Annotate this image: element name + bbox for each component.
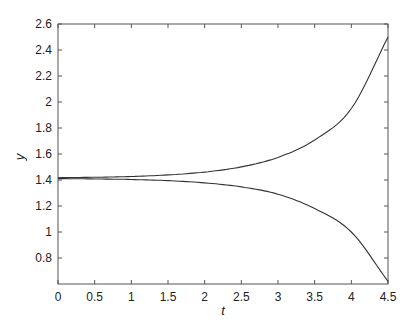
x-tick-label: 3 bbox=[275, 290, 282, 304]
x-tick-label: 2 bbox=[201, 290, 208, 304]
y-tick-label: 1.6 bbox=[35, 147, 52, 161]
y-tick-label: 1.2 bbox=[35, 199, 52, 213]
y-tick-label: 1 bbox=[45, 225, 52, 239]
x-tick-label: 0.5 bbox=[86, 290, 103, 304]
x-tick-label: 3.5 bbox=[306, 290, 323, 304]
x-tick-label: 2.5 bbox=[233, 290, 250, 304]
x-tick-label: 1 bbox=[128, 290, 135, 304]
x-axis-label: t bbox=[221, 303, 226, 318]
x-tick-label: 4 bbox=[348, 290, 355, 304]
line-chart: 00.511.522.533.544.5 0.811.21.41.61.822.… bbox=[0, 0, 409, 329]
y-tick-label: 1.8 bbox=[35, 121, 52, 135]
y-tick-label: 2 bbox=[45, 95, 52, 109]
plot-area bbox=[58, 24, 388, 284]
x-tick-label: 4.5 bbox=[380, 290, 397, 304]
y-tick-label: 0.8 bbox=[35, 251, 52, 265]
x-tick-label: 1.5 bbox=[160, 290, 177, 304]
y-tick-label: 2.2 bbox=[35, 69, 52, 83]
y-tick-label: 1.4 bbox=[35, 173, 52, 187]
y-tick-label: 2.4 bbox=[35, 43, 52, 57]
y-tick-label: 2.6 bbox=[35, 17, 52, 31]
x-tick-label: 0 bbox=[55, 290, 62, 304]
y-axis-label: y bbox=[12, 152, 27, 161]
